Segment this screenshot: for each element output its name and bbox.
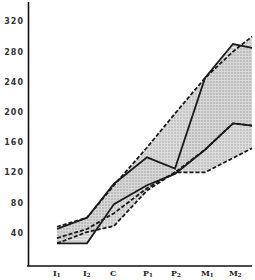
x-tick-label: C <box>110 268 116 278</box>
x-tick-label: P2 <box>171 268 181 278</box>
x-tick-label: I2 <box>83 268 91 278</box>
x-tick-label: M2 <box>229 268 242 278</box>
x-tick-label: I1 <box>53 268 61 278</box>
y-tick-label: 160 <box>4 138 24 147</box>
y-tick-label: 320 <box>4 17 24 26</box>
y-tick-label: 200 <box>4 108 24 117</box>
x-tick-label: P1 <box>143 268 153 278</box>
x-tick-labels: I1I2CP1P2M1M2 <box>53 268 242 278</box>
bands <box>57 37 252 244</box>
y-tick-label: 80 <box>11 199 24 208</box>
y-tick-label: 40 <box>11 229 24 238</box>
y-tick-label: 280 <box>4 48 24 57</box>
y-tick-label: 240 <box>4 78 24 87</box>
x-tick-label: M1 <box>201 268 214 278</box>
y-tick-labels: 4080120160200240280320 <box>4 17 24 237</box>
y-tick-label: 120 <box>4 168 24 177</box>
chart: 4080120160200240280320 I1I2CP1P2M1M2 <box>0 0 255 280</box>
lower-band <box>57 37 252 244</box>
